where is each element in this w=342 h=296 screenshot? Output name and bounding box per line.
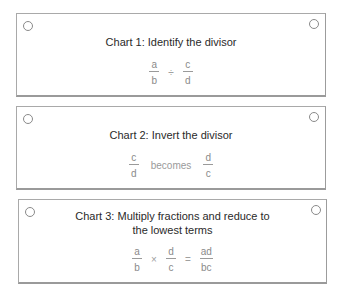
numerator: d: [203, 152, 213, 165]
chart-1-title: Chart 1: Identify the divisor: [17, 35, 325, 49]
multiply-operator: ×: [151, 254, 157, 265]
fraction-c-over-d: c d: [183, 59, 193, 86]
chart-3-card: Chart 3: Multiply fractions and reduce t…: [18, 199, 327, 284]
chart-1-expression: a b ÷ c d: [17, 59, 325, 86]
fraction-d-over-c: d c: [203, 152, 213, 179]
fraction-a-over-b: a b: [132, 246, 142, 273]
fraction-a-over-b: a b: [149, 59, 159, 86]
hole-punch-left-icon: [23, 21, 33, 31]
chart-3-expression: a b × d c = ad bc: [19, 246, 326, 273]
denominator: d: [185, 72, 191, 86]
becomes-label: becomes: [151, 160, 192, 171]
chart-3-title: Chart 3: Multiply fractions and reduce t…: [19, 209, 326, 237]
denominator: c: [168, 259, 173, 273]
divide-operator: ÷: [168, 67, 174, 78]
equals-operator: =: [185, 254, 191, 265]
numerator: c: [183, 59, 193, 72]
fraction-d-over-c: d c: [166, 246, 176, 273]
fraction-c-over-d: c d: [129, 152, 139, 179]
denominator: bc: [201, 259, 212, 273]
hole-punch-right-icon: [309, 112, 319, 122]
numerator: a: [149, 59, 159, 72]
chart-2-expression: c d becomes d c: [17, 152, 325, 179]
numerator: a: [132, 246, 142, 259]
chart-2-card: Chart 2: Invert the divisor c d becomes …: [16, 106, 326, 190]
numerator: ad: [200, 246, 213, 259]
chart-3-title-line-1: Chart 3: Multiply fractions and reduce t…: [19, 209, 326, 223]
hole-punch-right-icon: [309, 19, 319, 29]
chart-3-title-line-2: the lowest terms: [19, 223, 326, 237]
chart-2-title: Chart 2: Invert the divisor: [17, 128, 325, 142]
denominator: b: [151, 72, 157, 86]
numerator: c: [129, 152, 139, 165]
denominator: b: [134, 259, 140, 273]
numerator: d: [166, 246, 176, 259]
chart-1-card: Chart 1: Identify the divisor a b ÷ c d: [16, 13, 326, 97]
hole-punch-left-icon: [23, 114, 33, 124]
denominator: d: [131, 165, 137, 179]
fraction-ad-over-bc: ad bc: [200, 246, 213, 273]
denominator: c: [206, 165, 211, 179]
